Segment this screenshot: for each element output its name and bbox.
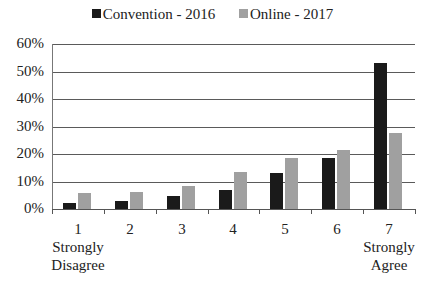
x-axis [52,209,415,210]
x-tick [52,209,53,214]
y-tick-label: 20% [0,145,44,162]
x-tick [311,209,312,214]
x-label-line: 2 [100,220,160,238]
x-label-line: 1 [48,220,108,238]
x-label-line: 5 [255,220,315,238]
y-tick-label: 0% [0,200,44,217]
x-category-label: 1StronglyDisagree [48,220,108,274]
bar-online [182,186,195,209]
gridline [52,127,415,128]
x-label-line: 6 [307,220,367,238]
x-tick [415,209,416,214]
bar-online [234,172,247,209]
x-category-label: 7StronglyAgree [359,220,419,274]
x-label-line: Disagree [48,256,108,274]
legend-item-online: Online - 2017 [239,6,333,23]
gridline [52,72,415,73]
bar-convention [63,203,76,209]
x-tick [363,209,364,214]
y-tick-label: 40% [0,90,44,107]
x-tick [104,209,105,214]
bar-online [285,158,298,209]
bar-convention [115,201,128,209]
bar-online [78,193,91,209]
x-label-line: 4 [203,220,263,238]
bar-convention [322,158,335,209]
x-tick [208,209,209,214]
gridline [52,44,415,45]
legend-label: Convention - 2016 [103,6,216,22]
y-tick-label: 60% [0,35,44,52]
bar-online [337,150,350,209]
legend-swatch-icon [92,9,101,18]
x-label-line: Strongly [48,238,108,256]
x-tick [156,209,157,214]
x-category-label: 5 [255,220,315,238]
legend: Convention - 2016 Online - 2017 [0,6,425,23]
legend-item-convention: Convention - 2016 [92,6,216,23]
x-category-label: 6 [307,220,367,238]
y-tick-label: 10% [0,173,44,190]
bar-online [130,192,143,209]
gridline [52,154,415,155]
bar-chart: Convention - 2016 Online - 2017 0%10%20%… [0,0,425,282]
bar-convention [219,190,232,209]
y-tick-label: 30% [0,118,44,135]
x-label-line: Agree [359,256,419,274]
y-axis [52,44,53,210]
bar-convention [374,63,387,209]
y-tick-label: 50% [0,63,44,80]
legend-swatch-icon [239,9,248,18]
legend-label: Online - 2017 [250,6,333,22]
x-label-line: 7 [359,220,419,238]
x-label-line: Strongly [359,238,419,256]
x-tick [259,209,260,214]
bar-convention [270,173,283,209]
bar-online [389,133,402,209]
x-category-label: 2 [100,220,160,238]
gridline [52,99,415,100]
x-category-label: 4 [203,220,263,238]
bar-convention [167,196,180,209]
